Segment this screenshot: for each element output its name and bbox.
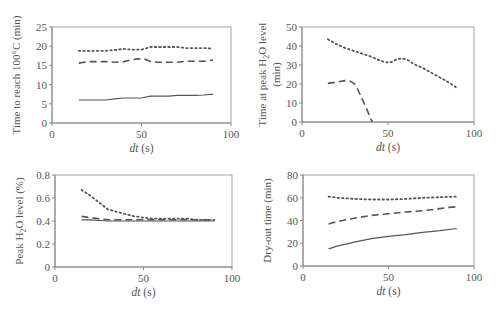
plot-frame [302, 27, 474, 122]
x-tick-label: 50 [383, 127, 395, 139]
axis-ticks: 01020304050050100 [286, 21, 483, 139]
chart-panel-time-at-peak-h2o: 01020304050050100 Time at peak H2O level… [256, 21, 483, 154]
series-lines [82, 190, 215, 221]
y-tick-label: 15 [36, 59, 48, 71]
x-tick-label: 0 [300, 271, 306, 283]
y-tick-label: 20 [286, 78, 298, 90]
chart-panel-time-to-100c: 0510152025050100 Time to reach 100°C (mi… [10, 15, 240, 155]
y-tick-label: 0 [42, 117, 48, 129]
y-tick-label: 10 [286, 97, 298, 109]
series-lines [328, 39, 457, 122]
series-dotted-line [82, 190, 215, 220]
x-tick-label: 100 [224, 272, 241, 284]
figure: 0510152025050100 Time to reach 100°C (mi… [0, 0, 499, 310]
x-tick-label: 50 [383, 271, 395, 283]
series-dashed-line [79, 59, 213, 63]
plot-frame [52, 27, 231, 123]
series-lines [329, 197, 457, 249]
axis-ticks: 0510152025050100 [36, 21, 240, 140]
x-axis-label: dt (s) [132, 286, 156, 299]
series-solid-line [329, 229, 457, 249]
series-dotted-line [329, 197, 457, 200]
y-tick-label: 30 [286, 59, 298, 71]
y-tick-label: 50 [286, 21, 298, 33]
series-lines [79, 47, 213, 100]
series-dotted-line [328, 39, 457, 88]
y-tick-label: 80 [287, 169, 299, 181]
series-dotted-line [79, 47, 213, 51]
chart-panel-peak-h2o-level: 00.20.40.60.8050100 Peak H2O level (%) d… [13, 169, 241, 299]
y-tick-label: 0 [293, 260, 299, 272]
series-dashed-line [329, 207, 457, 224]
y-axis-label: Time at peak H2O level [256, 23, 271, 127]
y-tick-label: 20 [36, 40, 48, 52]
x-axis-label: dt (s) [377, 285, 401, 298]
y-tick-label: 10 [36, 79, 48, 91]
y-tick-label: 60 [287, 192, 299, 204]
y-tick-label: 25 [36, 21, 48, 33]
y-axis-label: Dry-out time (min) [261, 178, 274, 263]
y-tick-label: 0.4 [36, 215, 50, 227]
y-tick-label: 20 [287, 237, 299, 249]
y-axis-label: Time to reach 100°C (min) [10, 15, 23, 134]
x-tick-label: 0 [299, 127, 305, 139]
y-axis-label-unit: (min) [270, 62, 283, 87]
x-tick-label: 0 [52, 272, 58, 284]
y-tick-label: 40 [286, 40, 298, 52]
series-dashed-line [328, 81, 373, 122]
y-tick-label: 40 [287, 215, 299, 227]
x-axis-label: dt (s) [376, 141, 400, 154]
y-tick-label: 0.8 [36, 169, 50, 181]
plot-frame [303, 175, 474, 266]
x-tick-label: 50 [136, 128, 148, 140]
series-solid-line [79, 94, 213, 100]
y-tick-label: 0 [45, 261, 51, 273]
y-tick-label: 5 [42, 98, 48, 110]
x-tick-label: 50 [138, 272, 150, 284]
x-axis-label: dt (s) [130, 142, 154, 155]
x-tick-label: 100 [466, 271, 483, 283]
y-axis-label: Peak H2O level (%) [13, 177, 28, 265]
x-tick-label: 100 [466, 127, 483, 139]
y-tick-label: 0 [292, 116, 298, 128]
x-tick-label: 100 [223, 128, 240, 140]
y-tick-label: 0.6 [36, 192, 50, 204]
chart-panel-dry-out-time: 020406080050100 Dry-out time (min) dt (s… [261, 169, 483, 298]
x-tick-label: 0 [49, 128, 55, 140]
y-tick-label: 0.2 [36, 238, 50, 250]
